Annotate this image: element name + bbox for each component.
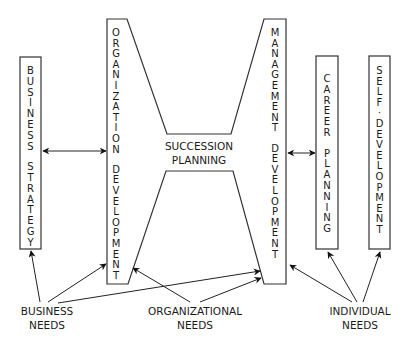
label-letter: I [326, 202, 329, 213]
organizational-needs-line2: NEEDS [177, 319, 213, 331]
label-letter: N [271, 112, 278, 123]
label-letter: V [272, 164, 279, 175]
label-letter: G [323, 223, 331, 234]
label-letter: P [272, 206, 278, 217]
label-letter: A [113, 59, 120, 70]
label-letter: E [376, 129, 382, 140]
label-letter: S [27, 141, 33, 152]
label-letter: M [375, 192, 384, 203]
label-letter: E [324, 116, 330, 127]
arrow-ineeds-self [363, 252, 380, 302]
label-letter: D [112, 164, 120, 175]
label-letter: Z [113, 91, 120, 102]
label-letter: L [377, 86, 383, 97]
organization-development-label: ORGANIZATIONDEVELOPMENT [112, 27, 121, 281]
label-letter: O [112, 27, 120, 38]
label-letter: N [323, 212, 330, 223]
label-letter: P [324, 148, 330, 159]
label-letter: N [323, 191, 330, 202]
label-letter: M [271, 27, 280, 38]
label-letter: N [271, 238, 278, 249]
label-letter: U [27, 76, 34, 87]
label-letter: C [324, 73, 331, 84]
label-letter: E [376, 76, 382, 87]
label-letter: E [272, 80, 278, 91]
label-letter: E [27, 215, 33, 226]
label-letter: O [112, 133, 120, 144]
label-letter: N [112, 259, 119, 270]
label-letter: E [324, 105, 330, 116]
label-letter: E [113, 196, 119, 207]
label-letter: E [376, 150, 382, 161]
label-letter: E [272, 153, 278, 164]
label-letter: · [378, 107, 381, 118]
arrow-oneeds-orgdev [133, 268, 190, 302]
label-letter: E [376, 203, 382, 214]
label-letter: V [113, 185, 120, 196]
label-letter: R [324, 127, 331, 138]
label-letter: F [377, 97, 383, 108]
label-letter: A [272, 59, 279, 70]
label-letter: A [324, 84, 331, 95]
arrow-bneeds-strategy [31, 251, 40, 302]
label-letter: S [376, 65, 382, 76]
label-letter: S [27, 87, 33, 98]
label-letter: O [376, 171, 384, 182]
label-letter: V [376, 139, 383, 150]
management-development-label: MANAGEMENTDEVELOPMENT [271, 27, 280, 260]
label-letter: T [112, 112, 120, 123]
label-letter: B [27, 65, 34, 76]
label-letter: S [27, 130, 33, 141]
label-letter: G [27, 226, 35, 237]
label-letter: M [271, 91, 280, 102]
label-letter: N [271, 48, 278, 59]
succession-planning-diagram: BUSINESSSTRATEGY ORGANIZATIONDEVELOPMENT… [0, 0, 408, 348]
label-letter: A [27, 194, 34, 205]
label-letter: M [271, 217, 280, 228]
label-letter: I [115, 80, 118, 91]
label-letter: T [271, 249, 279, 260]
succession-label-line1: SUCCESSION [165, 140, 233, 152]
label-letter: E [113, 174, 119, 185]
label-letter: N [27, 108, 34, 119]
arrow-ineeds-career [328, 252, 357, 302]
label-letter: E [27, 119, 33, 130]
succession-label-line2: PLANNING [172, 154, 226, 166]
label-letter: L [113, 206, 119, 217]
label-letter: E [272, 227, 278, 238]
label-letter: P [376, 182, 382, 193]
label-letter: S [27, 161, 33, 172]
label-letter: N [112, 69, 119, 80]
label-letter: L [324, 158, 330, 169]
label-letter: A [324, 169, 331, 180]
label-letter: I [115, 122, 118, 133]
label-letter: P [113, 227, 119, 238]
label-letter: N [112, 144, 119, 155]
label-letter: A [272, 38, 279, 49]
label-letter: R [324, 95, 331, 106]
label-letter: R [27, 183, 34, 194]
label-letter: L [377, 160, 383, 171]
label-letter: M [112, 238, 121, 249]
organizational-needs-line1: ORGANIZATIONAL [148, 305, 242, 317]
arrow-oneeds-mgmtdev [200, 278, 261, 302]
individual-needs-line1: INDIVIDUAL [329, 305, 390, 317]
label-letter: O [112, 217, 120, 228]
arrow-ineeds-mgmtdev [290, 265, 352, 302]
label-letter: E [272, 101, 278, 112]
business-needs-line2: NEEDS [29, 319, 65, 331]
business-needs-line1: BUSINESS [21, 305, 74, 317]
label-letter: N [323, 180, 330, 191]
label-letter: G [112, 48, 120, 59]
label-letter: O [271, 196, 279, 207]
individual-needs-line2: NEEDS [342, 319, 378, 331]
label-letter: T [271, 122, 279, 133]
label-letter: T [26, 204, 34, 215]
label-letter: G [271, 69, 279, 80]
label-letter: R [113, 38, 120, 49]
label-letter: I [29, 97, 32, 108]
label-letter: E [272, 174, 278, 185]
label-letter: T [26, 172, 34, 183]
label-letter: Y [26, 237, 34, 248]
label-letter: E [113, 249, 119, 260]
